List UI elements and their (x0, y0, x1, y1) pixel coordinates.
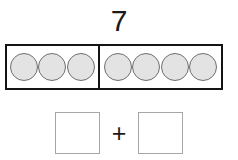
counter-dot-icon (38, 53, 66, 81)
number-bond-worksheet: 7 + (0, 0, 238, 160)
counter-dot-icon (10, 53, 38, 81)
counter-dot-icon (132, 53, 160, 81)
counter-dot-icon (104, 53, 132, 81)
left-answer-box[interactable] (55, 112, 100, 154)
equation-row: + (0, 110, 238, 156)
plus-sign-icon: + (100, 112, 138, 154)
total-number-label: 7 (0, 4, 238, 38)
bar-part-left (7, 46, 100, 88)
whole-bar (5, 44, 223, 90)
counter-dot-icon (161, 53, 189, 81)
counter-dot-icon (189, 53, 217, 81)
bar-part-right (100, 46, 221, 88)
counter-dot-icon (67, 53, 95, 81)
right-answer-box[interactable] (138, 112, 183, 154)
